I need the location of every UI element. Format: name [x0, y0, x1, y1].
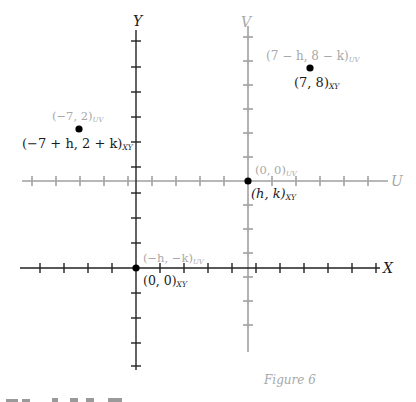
label-point-7-8-xy: (7, 8)XY [294, 75, 340, 91]
y-axis-label: Y [133, 13, 144, 29]
figure-caption: Figure 6 [263, 373, 316, 387]
label-point-neg7-2-xy: (−7 + h, 2 + k)XY [22, 136, 134, 152]
label-point-7-8-uv: (7 − h, 8 − k)UV [266, 49, 361, 64]
x-axis-label: X [382, 260, 394, 276]
coordinate-translation-diagram: Y X V U (−h, −k)UV (0, 0)XY (0, 0)UV (h,… [0, 0, 416, 402]
uv-axes [22, 26, 388, 352]
label-origin-uv-uv: (0, 0)UV [255, 163, 298, 178]
label-origin-uv-xy: (h, k)XY [251, 186, 297, 202]
u-axis-label: U [391, 173, 404, 189]
label-origin-xy-xy: (0, 0)XY [143, 273, 188, 289]
v-axis-label: V [241, 14, 253, 30]
label-point-neg7-2-uv: (−7, 2)UV [52, 109, 104, 124]
cropped-text-line [6, 398, 122, 402]
point-origin-uv [244, 177, 251, 184]
point-origin-xy [132, 264, 139, 271]
point-7-8 [306, 64, 313, 71]
label-origin-xy-uv: (−h, −k)UV [143, 251, 205, 266]
point-neg7-2 [75, 125, 82, 132]
